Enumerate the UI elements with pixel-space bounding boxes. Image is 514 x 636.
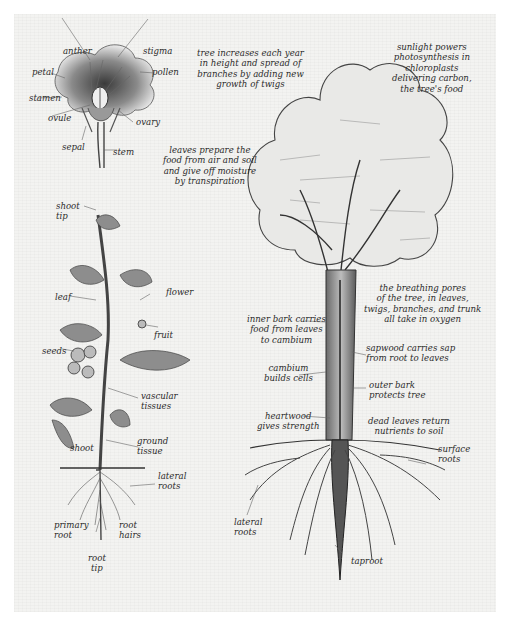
label-shoot: shoot [70, 443, 94, 453]
label-seeds: seeds [42, 346, 67, 356]
label-pollen: pollen [152, 67, 179, 77]
label-ovule: ovule [48, 113, 71, 123]
label-stem: stem [113, 147, 134, 157]
label-root-hairs: root hairs [119, 520, 141, 541]
annotation-sunlight-photosynthesis: sunlight powers photosynthesis in chloro… [392, 42, 472, 94]
annotation-inner-bark: inner bark carries food from leaves to c… [247, 314, 326, 345]
label-primary-root: primary root [54, 520, 89, 541]
label-surface-roots: surface roots [438, 444, 470, 465]
label-ovary: ovary [136, 117, 160, 127]
label-taproot: taproot [351, 556, 383, 566]
annotation-breathing-pores: the breathing pores of the tree, in leav… [364, 283, 481, 325]
label-petal: petal [32, 67, 54, 77]
label-tree-lateral-roots: lateral roots [234, 517, 262, 538]
label-tomato-lateral-roots: lateral roots [158, 471, 186, 492]
label-anther: anther [63, 46, 92, 56]
label-flower: flower [166, 287, 193, 297]
annotation-tree-growth: tree increases each year in height and s… [197, 48, 304, 90]
annotation-dead-leaves: dead leaves return nutrients to soil [368, 416, 450, 437]
annotation-sapwood: sapwood carries sap from root to leaves [366, 343, 455, 364]
label-stamen: stamen [29, 93, 61, 103]
label-leaf: leaf [55, 292, 71, 302]
label-shoot-tip: shoot tip [56, 201, 80, 222]
label-root-tip: root tip [88, 553, 106, 574]
label-vascular-tissues: vascular tissues [141, 391, 178, 412]
label-sepal: sepal [62, 142, 85, 152]
label-stigma: stigma [143, 46, 172, 56]
annotation-heartwood: heartwood gives strength [257, 411, 319, 432]
annotation-leaves-transpiration: leaves prepare the food from air and soi… [163, 145, 257, 187]
annotation-cambium: cambium builds cells [264, 363, 313, 384]
annotation-outer-bark: outer bark protects tree [369, 380, 425, 401]
label-ground-tissue: ground tissue [137, 436, 168, 457]
label-fruit: fruit [154, 330, 173, 340]
